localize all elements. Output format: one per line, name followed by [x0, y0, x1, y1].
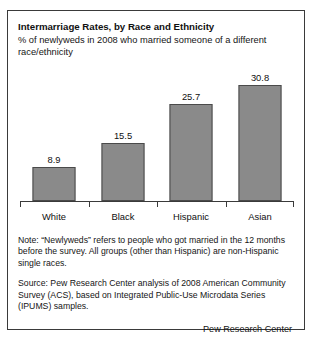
- bar-series: 8.915.525.730.8: [20, 69, 294, 201]
- x-axis-tick: [157, 201, 158, 207]
- bar[interactable]: [239, 85, 282, 201]
- x-axis-tick: [226, 201, 227, 207]
- note-text: Note: “Newlyweds” refers to people who g…: [18, 235, 286, 269]
- x-axis-label-hispanic: Hispanic: [158, 210, 224, 223]
- chart-header: Intermarriage Rates, by Race and Ethnici…: [18, 21, 296, 58]
- footnotes: Note: “Newlyweds” refers to people who g…: [18, 235, 294, 334]
- x-axis-tick: [89, 201, 90, 207]
- x-axis-tick: [20, 201, 21, 207]
- x-axis: [20, 201, 294, 208]
- bar-value-label: 8.9: [47, 154, 60, 165]
- bar-value-label: 15.5: [114, 130, 132, 141]
- source-text: Source: Pew Research Center analysis of …: [18, 278, 286, 312]
- chart-subtitle: % of newlyweds in 2008 who married someo…: [18, 34, 270, 58]
- x-axis-tick: [293, 201, 294, 207]
- bar[interactable]: [170, 104, 213, 201]
- bar-group: 25.7: [158, 69, 224, 201]
- plot-area: 8.915.525.730.8: [20, 69, 294, 201]
- bar-group: 8.9: [21, 69, 87, 201]
- bar-value-label: 30.8: [251, 72, 269, 83]
- bar-value-label: 25.7: [182, 91, 200, 102]
- bar[interactable]: [102, 143, 145, 201]
- x-axis-tick-labels: WhiteBlackHispanicAsian: [20, 210, 294, 224]
- chart-figure: Intermarriage Rates, by Race and Ethnici…: [7, 10, 305, 330]
- x-axis-label-white: White: [21, 210, 87, 223]
- bar[interactable]: [33, 167, 76, 201]
- x-axis-label-asian: Asian: [227, 210, 293, 223]
- chart-title: Intermarriage Rates, by Race and Ethnici…: [18, 21, 296, 33]
- bar-group: 15.5: [90, 69, 156, 201]
- attribution-text: Pew Research Center: [18, 324, 294, 334]
- bar-group: 30.8: [227, 69, 293, 201]
- x-axis-label-black: Black: [90, 210, 156, 223]
